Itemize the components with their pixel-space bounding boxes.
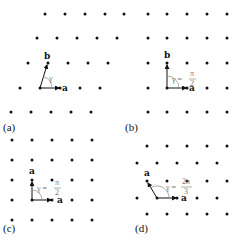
angle-numerator: π [55, 178, 59, 187]
panel-label-d: (d) [135, 222, 148, 235]
angle-label: γ = [36, 184, 48, 193]
angle-denominator: 3 [184, 187, 188, 196]
lattice-figure: a b γ (a) a b γ = π 2 (b) [0, 0, 242, 244]
vector-a2-label: a [29, 166, 35, 176]
vector-a2-label: a [144, 168, 150, 178]
angle-numerator: π [190, 69, 194, 78]
panel-label-b: (b) [125, 121, 138, 134]
angle-numerator: 2π [182, 177, 190, 186]
angle-denominator: 2 [190, 79, 194, 88]
panel-c: a a γ = π 2 (c) [3, 139, 94, 236]
panel-d: a a γ = 2π 3 (d) [135, 145, 229, 236]
angle-label: γ = [165, 183, 177, 192]
vector-a2 [148, 183, 157, 198]
lattice-dots [123, 13, 229, 114]
lattice-dots [11, 139, 94, 222]
lattice-dots [10, 13, 119, 114]
vector-b-label: b [164, 50, 170, 60]
panel-label-a: (a) [3, 121, 16, 134]
angle-denominator: 2 [55, 188, 59, 197]
angle-label: γ = [171, 75, 183, 84]
panel-a: a b γ (a) [3, 13, 119, 135]
vector-a-label: a [62, 83, 68, 93]
panel-b: a b γ = π 2 (b) [123, 13, 229, 135]
angle-label: γ [48, 74, 53, 83]
vector-b-label: b [44, 51, 50, 61]
panel-label-c: (c) [3, 222, 16, 235]
